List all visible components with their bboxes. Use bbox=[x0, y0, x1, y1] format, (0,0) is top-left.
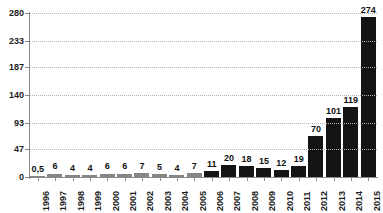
bar-value-label: 101 bbox=[325, 107, 342, 116]
bar bbox=[274, 170, 289, 177]
x-axis-tick bbox=[299, 177, 300, 181]
bar-value-label: 4 bbox=[168, 164, 185, 173]
x-axis-tick-label: 1996 bbox=[29, 181, 46, 213]
x-axis-tick bbox=[142, 177, 143, 181]
x-axis-labels: 1996199719981999200020012002200320042005… bbox=[29, 181, 378, 213]
y-axis-tick bbox=[25, 41, 30, 42]
gridline bbox=[29, 41, 377, 42]
plot-area: 0,564466754711201815121970101119274 bbox=[29, 13, 377, 177]
bar bbox=[343, 107, 358, 177]
y-axis-tick bbox=[25, 123, 30, 124]
bar-value-label: 119 bbox=[342, 96, 359, 105]
y-axis-labels: 28023318714093470 bbox=[0, 0, 24, 213]
x-axis-tick bbox=[194, 177, 195, 181]
bar bbox=[256, 168, 271, 177]
x-axis-tick bbox=[316, 177, 317, 181]
x-axis-tick-label: 2012 bbox=[307, 181, 324, 213]
x-axis-line bbox=[29, 177, 378, 178]
bar-value-label: 11 bbox=[203, 160, 220, 169]
x-axis-tick-label: 2014 bbox=[342, 181, 359, 213]
x-axis-tick-label: 1998 bbox=[64, 181, 81, 213]
x-axis-tick bbox=[73, 177, 74, 181]
x-axis-tick-label: 2003 bbox=[151, 181, 168, 213]
x-axis-tick bbox=[177, 177, 178, 181]
x-axis-tick-label: 2005 bbox=[186, 181, 203, 213]
bar-value-label: 0,5 bbox=[29, 165, 46, 174]
y-axis-tick-label: 93 bbox=[0, 119, 24, 128]
bar-value-label: 7 bbox=[186, 162, 203, 171]
y-axis-tick bbox=[25, 67, 30, 68]
x-axis-tick bbox=[264, 177, 265, 181]
x-axis-tick bbox=[107, 177, 108, 181]
y-axis-tick-label: 280 bbox=[0, 9, 24, 18]
y-axis-tick bbox=[25, 177, 30, 178]
bar-value-label: 6 bbox=[46, 162, 63, 171]
y-axis-tick-label: 0 bbox=[0, 173, 24, 182]
bar-value-label: 20 bbox=[220, 154, 237, 163]
bar bbox=[221, 165, 236, 177]
x-axis-tick-label: 2000 bbox=[99, 181, 116, 213]
bar-value-label: 4 bbox=[64, 164, 81, 173]
bar-value-label: 19 bbox=[290, 155, 307, 164]
bar bbox=[308, 136, 323, 177]
x-axis-tick-label: 2004 bbox=[168, 181, 185, 213]
x-axis-tick-label: 2010 bbox=[273, 181, 290, 213]
bar-value-label: 15 bbox=[255, 157, 272, 166]
bar bbox=[291, 166, 306, 177]
x-axis-tick-label: 2013 bbox=[325, 181, 342, 213]
bar-value-label: 6 bbox=[99, 162, 116, 171]
gridline bbox=[29, 67, 377, 68]
bar-value-label: 70 bbox=[307, 125, 324, 134]
x-axis-tick-label: 2008 bbox=[238, 181, 255, 213]
gridline bbox=[29, 149, 377, 150]
bar-chart: 28023318714093470 0,56446675471120181512… bbox=[0, 0, 383, 213]
y-axis-tick bbox=[25, 13, 30, 14]
x-axis-tick bbox=[125, 177, 126, 181]
x-axis-tick-label: 2006 bbox=[203, 181, 220, 213]
x-axis-tick bbox=[281, 177, 282, 181]
x-axis-tick-label: 2007 bbox=[220, 181, 237, 213]
bar-value-label: 12 bbox=[273, 159, 290, 168]
chart-title-remnant bbox=[95, 0, 290, 2]
x-axis-tick-label: 2002 bbox=[133, 181, 150, 213]
x-axis-tick-label: 1997 bbox=[46, 181, 63, 213]
x-axis-tick bbox=[55, 177, 56, 181]
bar-value-label: 4 bbox=[81, 164, 98, 173]
x-axis-tick bbox=[160, 177, 161, 181]
bar bbox=[239, 166, 254, 177]
x-axis-tick bbox=[334, 177, 335, 181]
y-axis-tick bbox=[25, 95, 30, 96]
x-axis-tick-label: 2015 bbox=[360, 181, 377, 213]
bar-value-label: 5 bbox=[151, 163, 168, 172]
y-axis-tick-label: 233 bbox=[0, 37, 24, 46]
x-axis-tick-label: 2011 bbox=[290, 181, 307, 213]
y-axis-tick-label: 140 bbox=[0, 91, 24, 100]
x-axis-tick-label: 2001 bbox=[116, 181, 133, 213]
x-axis-tick-label: 1999 bbox=[81, 181, 98, 213]
x-axis-tick bbox=[229, 177, 230, 181]
gridline bbox=[29, 95, 377, 96]
x-axis-tick bbox=[351, 177, 352, 181]
x-axis-tick bbox=[212, 177, 213, 181]
x-axis-tick bbox=[38, 177, 39, 181]
bar bbox=[326, 118, 341, 177]
x-axis-tick-label: 2009 bbox=[255, 181, 272, 213]
x-axis-tick bbox=[247, 177, 248, 181]
y-axis-tick-label: 47 bbox=[0, 145, 24, 154]
x-axis-tick bbox=[368, 177, 369, 181]
bar-value-label: 18 bbox=[238, 155, 255, 164]
x-axis-tick bbox=[90, 177, 91, 181]
y-axis-tick bbox=[25, 149, 30, 150]
bar-value-label: 7 bbox=[133, 162, 150, 171]
bar-value-label: 6 bbox=[116, 162, 133, 171]
gridline bbox=[29, 123, 377, 124]
gridline bbox=[29, 13, 377, 14]
y-axis-tick-label: 187 bbox=[0, 63, 24, 72]
